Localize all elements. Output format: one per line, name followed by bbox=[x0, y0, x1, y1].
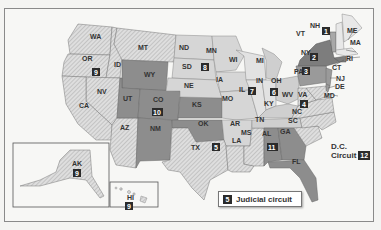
legend-badge: 5 bbox=[223, 195, 232, 204]
svg-text:7: 7 bbox=[250, 88, 254, 95]
svg-text:NH: NH bbox=[310, 22, 320, 29]
svg-text:NY: NY bbox=[301, 49, 311, 56]
svg-text:11: 11 bbox=[268, 144, 276, 151]
svg-text:KS: KS bbox=[192, 101, 202, 108]
svg-text:DE: DE bbox=[335, 83, 345, 90]
svg-text:NE: NE bbox=[184, 82, 194, 89]
svg-text:6: 6 bbox=[272, 89, 276, 96]
svg-text:MO: MO bbox=[222, 95, 234, 102]
circuit-badge-9-hi: 9 bbox=[125, 202, 133, 210]
svg-text:OR: OR bbox=[82, 55, 93, 62]
circuit-1-region bbox=[336, 14, 362, 60]
svg-text:ND: ND bbox=[179, 44, 189, 51]
svg-text:FL: FL bbox=[292, 158, 301, 165]
svg-text:1: 1 bbox=[324, 28, 328, 35]
svg-text:ME: ME bbox=[347, 27, 358, 34]
svg-text:9: 9 bbox=[75, 170, 79, 177]
dc-label-line2: Circuit bbox=[331, 151, 356, 160]
svg-text:TX: TX bbox=[191, 144, 200, 151]
svg-text:NJ: NJ bbox=[336, 75, 345, 82]
circuit-badge-5: 5 bbox=[212, 143, 220, 151]
svg-text:NC: NC bbox=[292, 108, 302, 115]
circuit-badge-8: 8 bbox=[201, 63, 209, 71]
svg-text:WV: WV bbox=[282, 91, 294, 98]
svg-text:3: 3 bbox=[304, 68, 308, 75]
circuit-badge-10: 10 bbox=[152, 108, 163, 116]
circuit-badge-3: 3 bbox=[302, 67, 310, 75]
svg-text:5: 5 bbox=[214, 144, 218, 151]
svg-text:OH: OH bbox=[271, 77, 282, 84]
dc-label-line1: D.C. bbox=[331, 142, 370, 151]
circuit-badge-9-main: 9 bbox=[92, 68, 100, 76]
svg-text:WA: WA bbox=[90, 33, 101, 40]
state-SD bbox=[172, 58, 216, 80]
circuit-badge-4: 4 bbox=[300, 100, 308, 108]
us-circuit-map: WA OR ID MT NV CA AZ WY UT CO NM ND SD N… bbox=[0, 0, 381, 230]
svg-text:MN: MN bbox=[206, 47, 217, 54]
svg-text:9: 9 bbox=[94, 69, 98, 76]
svg-text:VA: VA bbox=[298, 91, 307, 98]
svg-text:NM: NM bbox=[150, 125, 161, 132]
svg-text:HI: HI bbox=[127, 194, 134, 201]
svg-text:MD: MD bbox=[324, 92, 335, 99]
svg-text:CA: CA bbox=[79, 102, 89, 109]
circuit-badge-11: 11 bbox=[267, 143, 278, 151]
svg-text:LA: LA bbox=[232, 137, 241, 144]
svg-text:MI: MI bbox=[256, 57, 264, 64]
circuit-badge-7: 7 bbox=[248, 87, 256, 95]
map-legend: 5 Judicial circuit bbox=[218, 191, 302, 207]
svg-text:2: 2 bbox=[312, 54, 316, 61]
svg-text:IN: IN bbox=[256, 77, 263, 84]
circuit-badge-9-ak: 9 bbox=[73, 169, 81, 177]
svg-text:SC: SC bbox=[288, 117, 298, 124]
svg-text:RI: RI bbox=[346, 55, 353, 62]
svg-text:MT: MT bbox=[138, 44, 149, 51]
svg-text:IA: IA bbox=[216, 76, 223, 83]
state-AK bbox=[20, 150, 104, 198]
svg-text:OK: OK bbox=[198, 120, 209, 127]
svg-text:AR: AR bbox=[230, 120, 240, 127]
svg-text:ID: ID bbox=[114, 61, 121, 68]
svg-text:AL: AL bbox=[262, 130, 272, 137]
circuit-badge-6: 6 bbox=[270, 88, 278, 96]
svg-text:SD: SD bbox=[182, 63, 192, 70]
svg-text:4: 4 bbox=[302, 101, 306, 108]
dc-circuit-badge: 12 bbox=[358, 151, 370, 160]
svg-text:10: 10 bbox=[153, 109, 161, 116]
circuit-badge-2: 2 bbox=[310, 53, 318, 61]
svg-text:VT: VT bbox=[296, 30, 306, 37]
svg-text:NV: NV bbox=[97, 88, 107, 95]
state-MN bbox=[212, 36, 244, 72]
svg-text:UT: UT bbox=[123, 95, 133, 102]
svg-text:9: 9 bbox=[127, 203, 131, 210]
svg-text:IL: IL bbox=[239, 86, 246, 93]
svg-text:MA: MA bbox=[350, 39, 361, 46]
svg-text:WI: WI bbox=[229, 56, 238, 63]
dc-circuit-label: D.C. Circuit12 bbox=[331, 142, 370, 160]
svg-text:WY: WY bbox=[144, 71, 156, 78]
svg-text:GA: GA bbox=[280, 128, 291, 135]
svg-text:KY: KY bbox=[264, 100, 274, 107]
circuit-badge-1: 1 bbox=[322, 27, 330, 35]
svg-text:CT: CT bbox=[332, 64, 342, 71]
svg-text:AZ: AZ bbox=[120, 124, 130, 131]
svg-text:PA: PA bbox=[294, 68, 303, 75]
svg-text:8: 8 bbox=[203, 64, 207, 71]
svg-text:MS: MS bbox=[241, 129, 252, 136]
svg-text:CO: CO bbox=[153, 96, 164, 103]
svg-text:TN: TN bbox=[255, 116, 264, 123]
legend-label: Judicial circuit bbox=[236, 195, 292, 204]
svg-text:AK: AK bbox=[72, 160, 82, 167]
